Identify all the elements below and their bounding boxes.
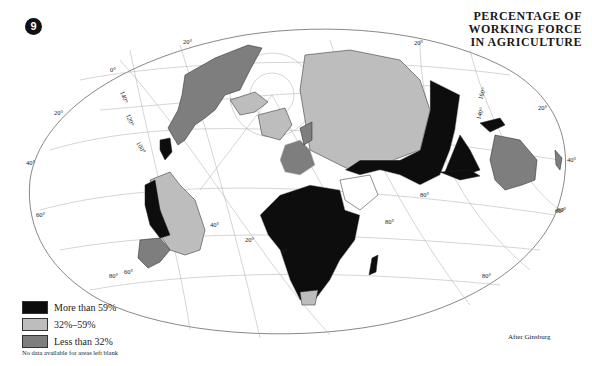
legend-label: 32%–59% [54,319,96,330]
svg-text:80°: 80° [109,272,119,279]
region-central-america [160,138,172,160]
region-arabia-blank [340,175,378,210]
legend-note: No data available for areas left blank [22,349,118,356]
region-africa [260,185,360,300]
legend-swatch-dark-gray [22,335,48,348]
svg-text:20°: 20° [183,38,193,45]
region-southern-africa [300,290,318,305]
svg-text:60°: 60° [36,211,46,218]
svg-text:60°: 60° [124,268,134,275]
source-credit: After Ginsburg [508,333,550,341]
svg-text:60°: 60° [557,206,567,213]
legend-swatch-black [22,301,48,314]
legend-label: Less than 32% [54,336,113,347]
svg-text:120°: 120° [125,113,136,127]
region-new-zealand [555,150,562,170]
svg-text:20°: 20° [54,109,64,116]
legend-item-more-than-59: More than 59% [22,299,118,315]
legend-label: More than 59% [54,302,116,313]
svg-text:80°: 80° [385,218,395,225]
region-arctic-islands [230,92,268,115]
legend-swatch-light-gray [22,318,48,331]
map-title: PERCENTAGE OF WORKING FORCE IN AGRICULTU… [468,10,582,49]
svg-text:40°: 40° [567,156,577,163]
region-ussr [300,50,430,170]
title-line-3: IN AGRICULTURE [468,36,582,49]
svg-text:0°: 0° [282,247,288,254]
svg-text:0°: 0° [110,66,116,73]
svg-text:160°: 160° [476,86,487,100]
svg-text:20°: 20° [538,104,548,111]
region-australia [490,135,537,190]
svg-text:40°: 40° [210,221,220,228]
region-greenland [258,108,292,140]
svg-text:100°: 100° [135,140,147,155]
region-madagascar [369,255,378,275]
svg-text:20°: 20° [414,39,424,46]
region-new-guinea [480,118,505,132]
svg-text:140°: 140° [119,90,130,104]
svg-text:20°: 20° [245,236,255,243]
map-legend: More than 59% 32%–59% Less than 32% No d… [22,299,118,356]
svg-text:140°: 140° [474,106,485,120]
svg-text:40°: 40° [26,159,36,166]
svg-text:80°: 80° [420,191,430,198]
plate-number-badge: 9 [25,18,42,35]
legend-item-32-59: 32%–59% [22,316,118,332]
svg-text:80°: 80° [482,272,492,279]
legend-item-less-than-32: Less than 32% [22,333,118,349]
